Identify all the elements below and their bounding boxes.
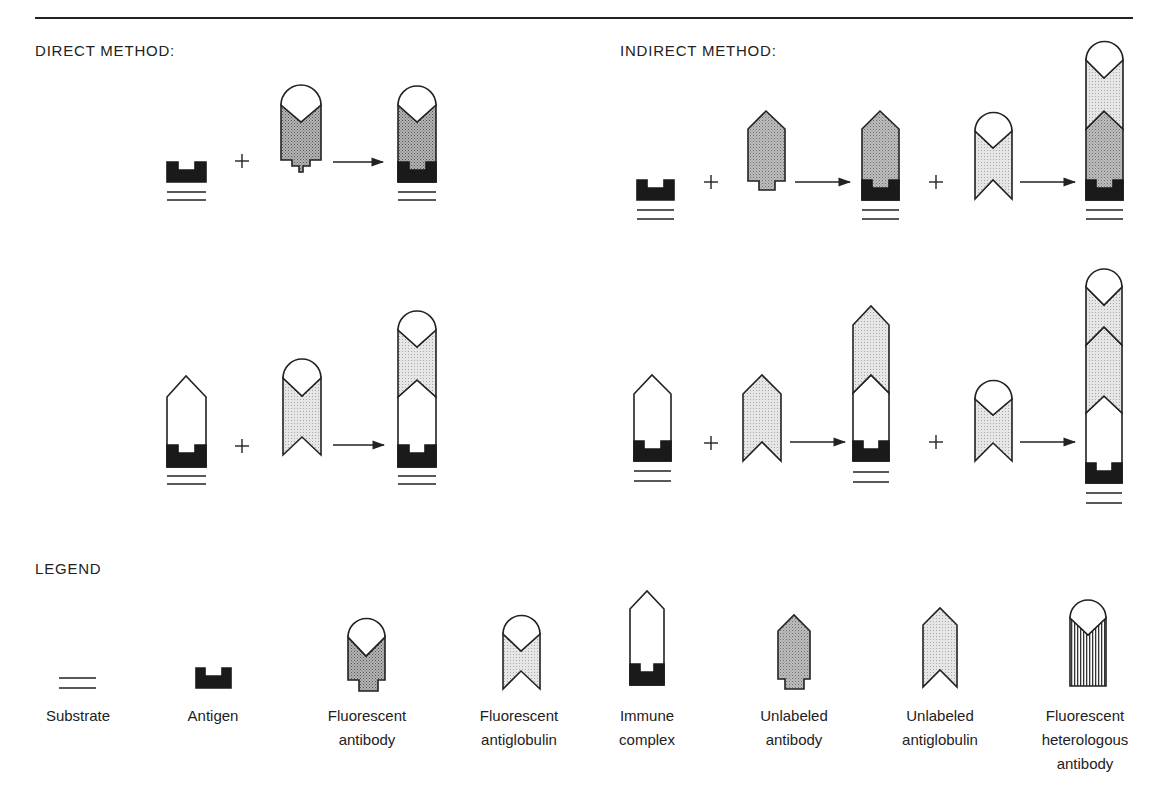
legend-label-unlabeled-antibody: Unlabeled antibody bbox=[724, 704, 864, 752]
legend-label-line: Substrate bbox=[8, 704, 148, 728]
indirect-row1-result bbox=[1086, 42, 1123, 220]
direct-row2-fluorescent-antiglobulin bbox=[283, 359, 321, 455]
direct-row2-immune-complex bbox=[167, 376, 206, 484]
fluorescent-antiglobulin-icon bbox=[503, 616, 540, 690]
legend-label-antigen: Antigen bbox=[143, 704, 283, 728]
legend-label-line: Fluorescent bbox=[1015, 704, 1155, 728]
direct-row1-fluorescent-antibody bbox=[281, 85, 321, 172]
legend-label-line: antiglobulin bbox=[449, 728, 589, 752]
legend-label-line: Immune bbox=[577, 704, 717, 728]
direct-row1-result bbox=[398, 86, 436, 200]
immune-complex-icon bbox=[630, 591, 664, 685]
indirect-row2-unlabeled-antiglobulin bbox=[743, 375, 781, 461]
plus-icon bbox=[235, 154, 249, 168]
antigen-icon bbox=[196, 668, 231, 688]
fluorescent-heterologous-antibody-icon bbox=[1070, 600, 1106, 686]
plus-icon bbox=[704, 436, 718, 450]
legend-label-line: antibody bbox=[1015, 752, 1155, 776]
legend-label-fluorescent-antibody: Fluorescent antibody bbox=[297, 704, 437, 752]
legend-label-line: complex bbox=[577, 728, 717, 752]
indirect-row1-antigen-antibody bbox=[862, 111, 899, 219]
substrate-icon bbox=[59, 678, 96, 688]
plus-icon bbox=[235, 439, 249, 453]
indirect-row2-result bbox=[1086, 269, 1122, 503]
legend-label-line: antibody bbox=[724, 728, 864, 752]
fluorescent-antibody-icon bbox=[348, 619, 385, 692]
legend-label-line: Antigen bbox=[143, 704, 283, 728]
legend-label-fluorescent-heterologous-antibody: Fluorescent heterologous antibody bbox=[1015, 704, 1155, 776]
legend-label-line: Fluorescent bbox=[449, 704, 589, 728]
indirect-row2-complex-antiglobulin bbox=[853, 306, 889, 482]
indirect-row1-antigen-on-substrate bbox=[637, 180, 674, 219]
legend-label-immune-complex: Immune complex bbox=[577, 704, 717, 752]
plus-icon bbox=[704, 175, 718, 189]
indirect-row2-fluorescent-antiglobulin bbox=[975, 381, 1012, 462]
legend-label-fluorescent-antiglobulin: Fluorescent antiglobulin bbox=[449, 704, 589, 752]
legend-label-substrate: Substrate bbox=[8, 704, 148, 728]
plus-icon bbox=[929, 175, 943, 189]
legend-label-unlabeled-antiglobulin: Unlabeled antiglobulin bbox=[870, 704, 1010, 752]
indirect-row1-unlabeled-antibody bbox=[748, 111, 785, 190]
legend-label-line: antibody bbox=[297, 728, 437, 752]
indirect-row1-fluorescent-antiglobulin bbox=[975, 113, 1012, 199]
legend-label-line: heterologous bbox=[1015, 728, 1155, 752]
direct-row1-antigen-on-substrate bbox=[167, 162, 206, 200]
unlabeled-antiglobulin-icon bbox=[923, 608, 957, 687]
legend-label-line: Fluorescent bbox=[297, 704, 437, 728]
indirect-row2-immune-complex bbox=[634, 375, 671, 481]
unlabeled-antibody-icon bbox=[778, 615, 810, 689]
legend-label-line: Unlabeled bbox=[870, 704, 1010, 728]
direct-row2-result bbox=[398, 311, 436, 484]
immunofluorescence-diagram bbox=[0, 0, 1162, 804]
legend-label-line: Unlabeled bbox=[724, 704, 864, 728]
legend-label-line: antiglobulin bbox=[870, 728, 1010, 752]
plus-icon bbox=[929, 435, 943, 449]
